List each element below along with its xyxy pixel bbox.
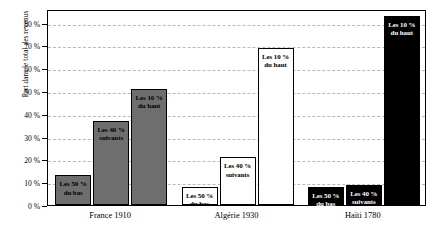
- bar: Les 40 % suivants: [220, 157, 256, 205]
- bar: Les 50 % du bas: [308, 187, 344, 205]
- x-axis-group-label: Algérie 1930: [215, 211, 259, 220]
- bar: Les 10 % du haut: [384, 16, 420, 205]
- bar-label: Les 40 % suivants: [224, 158, 251, 179]
- bar: Les 10 % du haut: [258, 48, 294, 205]
- y-tick-label: 20 %: [2, 156, 40, 165]
- bar: Les 40 % suivants: [346, 185, 382, 206]
- y-tick-label: 40 %: [2, 110, 40, 119]
- bar: Les 50 % du bas: [182, 187, 218, 205]
- y-tick-label: 70 %: [2, 42, 40, 51]
- bars-layer: Les 50 % du basLes 40 % suivantsLes 10 %…: [48, 11, 425, 205]
- bar-label: Les 10 % du haut: [388, 17, 415, 38]
- y-tick-label: 30 %: [2, 133, 40, 142]
- plot-area: Les 50 % du basLes 40 % suivantsLes 10 %…: [47, 10, 426, 206]
- bar-label: Les 40 % suivants: [350, 186, 377, 207]
- chart-root: Part dans le total des revenus 0 %10 %20…: [0, 0, 440, 238]
- bar: Les 10 % du haut: [131, 89, 167, 205]
- x-axis-group-label: France 1910: [89, 211, 131, 220]
- y-tick-label: 80 %: [2, 19, 40, 28]
- y-tick-label: 10 %: [2, 179, 40, 188]
- bar-label: Les 50 % du bas: [186, 188, 213, 209]
- bar: Les 50 % du bas: [55, 175, 91, 205]
- y-tick-label: 0 %: [2, 202, 40, 211]
- bar-label: Les 50 % du bas: [312, 188, 339, 209]
- y-tick-mark: [42, 206, 47, 207]
- y-tick-label: 50 %: [2, 88, 40, 97]
- bar-label: Les 40 % suivants: [98, 122, 125, 143]
- x-axis-group-label: Haïti 1780: [345, 211, 381, 220]
- y-tick-label: 60 %: [2, 65, 40, 74]
- bar: Les 40 % suivants: [93, 121, 129, 205]
- bar-label: Les 10 % du haut: [262, 49, 289, 70]
- bar-label: Les 10 % du haut: [136, 90, 163, 111]
- bar-label: Les 50 % du bas: [60, 176, 87, 197]
- y-axis-title: Part dans le total des revenus: [22, 0, 30, 134]
